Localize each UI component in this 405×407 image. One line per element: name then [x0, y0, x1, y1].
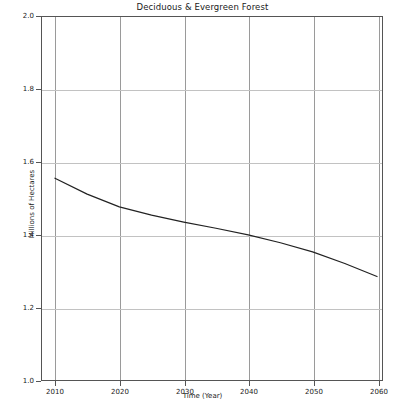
y-tick-label: 1.8 — [0, 85, 34, 93]
x-tick-mark — [55, 381, 56, 386]
x-tick-label: 2060 — [356, 388, 402, 396]
chart-title: Deciduous & Evergreen Forest — [0, 2, 405, 12]
y-tick-label: 1.2 — [0, 304, 34, 312]
x-tick-mark — [314, 381, 315, 386]
x-tick-mark — [379, 381, 380, 386]
x-tick-mark — [185, 381, 186, 386]
x-tick-label: 2020 — [97, 388, 143, 396]
series-line-deciduous-evergreen-forest — [55, 178, 377, 276]
x-tick-label: 2040 — [226, 388, 272, 396]
y-axis-label: Millions of Hectares — [28, 134, 36, 274]
x-tick-mark — [120, 381, 121, 386]
x-tick-mark — [249, 381, 250, 386]
y-tick-label: 1.0 — [0, 377, 34, 385]
y-tick-label: 2.0 — [0, 12, 34, 20]
y-tick-label: 1.4 — [0, 231, 34, 239]
y-tick-mark — [36, 381, 41, 382]
series-line-chart — [42, 17, 382, 380]
x-tick-label: 2030 — [162, 388, 208, 396]
plot-area — [41, 16, 383, 381]
x-tick-label: 2050 — [291, 388, 337, 396]
x-tick-label: 2010 — [32, 388, 78, 396]
y-tick-label: 1.6 — [0, 158, 34, 166]
chart-figure: Deciduous & Evergreen Forest Millions of… — [0, 0, 405, 407]
